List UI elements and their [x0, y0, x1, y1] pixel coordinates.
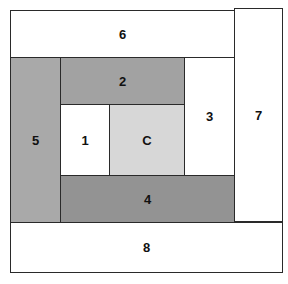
- block-7-label: 7: [255, 109, 262, 122]
- block-center-label: C: [142, 134, 151, 147]
- log-cabin-diagram: 6 7 5 2 3 1 C 4 8: [0, 0, 288, 284]
- block-8-label: 8: [143, 241, 150, 254]
- block-3: 3: [184, 57, 235, 176]
- block-4-label: 4: [144, 193, 151, 206]
- block-4: 4: [60, 175, 235, 223]
- block-center: C: [109, 104, 185, 176]
- block-6: 6: [10, 10, 235, 58]
- block-2: 2: [60, 57, 185, 105]
- block-3-label: 3: [206, 110, 213, 123]
- block-1: 1: [60, 104, 110, 176]
- block-2-label: 2: [119, 75, 126, 88]
- block-5: 5: [10, 57, 61, 223]
- block-7: 7: [234, 8, 283, 222]
- block-8: 8: [10, 222, 283, 273]
- block-5-label: 5: [32, 134, 39, 147]
- block-6-label: 6: [119, 28, 126, 41]
- block-1-label: 1: [81, 134, 88, 147]
